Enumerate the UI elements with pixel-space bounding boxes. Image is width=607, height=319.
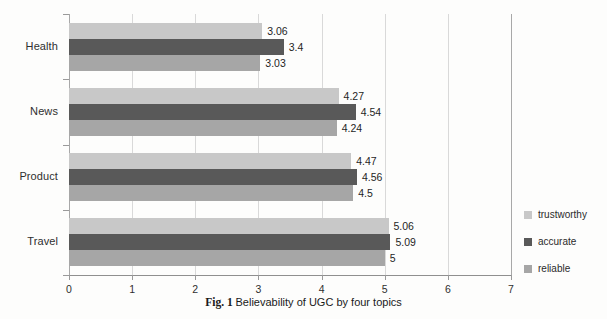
- bar-value-product-trustworthy: 4.47: [356, 153, 376, 169]
- x-axis-line: [69, 275, 512, 276]
- bar-news-reliable: [69, 120, 337, 136]
- grid-line-6: [448, 14, 449, 275]
- y-axis-tick-0: [63, 14, 69, 15]
- bar-product-reliable: [69, 185, 353, 201]
- x-axis-tick-label-7: 7: [508, 283, 514, 295]
- legend-swatch-trustworthy-icon: [524, 211, 532, 219]
- category-label-travel: Travel: [0, 235, 58, 247]
- category-label-product: Product: [0, 170, 58, 182]
- x-axis-tick-label-4: 4: [319, 283, 325, 295]
- bar-value-travel-accurate: 5.09: [395, 234, 415, 250]
- x-axis-tick-label-0: 0: [66, 283, 72, 295]
- y-axis-tick-1: [63, 79, 69, 80]
- figure-container: 3.063.43.034.274.544.244.474.564.55.065.…: [0, 0, 607, 319]
- bar-travel-reliable: [69, 250, 385, 266]
- bar-travel-accurate: [69, 234, 390, 250]
- legend-label-reliable: reliable: [538, 263, 570, 274]
- bar-product-accurate: [69, 169, 357, 185]
- legend-label-accurate: accurate: [538, 236, 576, 247]
- bar-value-news-reliable: 4.24: [342, 120, 362, 136]
- bar-value-travel-trustworthy: 5.06: [394, 218, 414, 234]
- figure-caption: Fig. 1 Believability of UGC by four topi…: [0, 296, 607, 308]
- y-axis-tick-3: [63, 210, 69, 211]
- x-axis-tick-label-3: 3: [256, 283, 262, 295]
- legend-item-trustworthy[interactable]: trustworthy: [524, 201, 604, 228]
- bar-product-trustworthy: [69, 153, 351, 169]
- figure-number: Fig. 1: [205, 296, 232, 308]
- bar-value-travel-reliable: 5: [390, 250, 396, 266]
- legend-item-accurate[interactable]: accurate: [524, 228, 604, 255]
- legend-swatch-reliable-icon: [524, 265, 532, 273]
- bar-value-health-accurate: 3.4: [289, 39, 304, 55]
- bar-value-health-reliable: 3.03: [265, 55, 285, 71]
- bar-value-product-reliable: 4.5: [358, 185, 373, 201]
- bar-health-reliable: [69, 55, 260, 71]
- x-axis-tick-mark-0: [69, 275, 70, 280]
- x-axis-tick-mark-1: [132, 275, 133, 280]
- legend-item-reliable[interactable]: reliable: [524, 255, 604, 282]
- x-axis-tick-mark-6: [448, 275, 449, 280]
- x-axis-tick-mark-5: [385, 275, 386, 280]
- figure-caption-text: Believability of UGC by four topics: [236, 296, 402, 308]
- x-axis-tick-mark-2: [195, 275, 196, 280]
- x-axis-tick-mark-4: [322, 275, 323, 280]
- category-label-health: Health: [0, 40, 58, 52]
- bar-health-trustworthy: [69, 23, 262, 39]
- bar-health-accurate: [69, 39, 284, 55]
- bar-news-accurate: [69, 104, 356, 120]
- legend-label-trustworthy: trustworthy: [538, 209, 587, 220]
- bar-value-news-accurate: 4.54: [361, 104, 381, 120]
- bar-news-trustworthy: [69, 88, 339, 104]
- bar-value-health-trustworthy: 3.06: [267, 23, 287, 39]
- x-axis-tick-label-1: 1: [129, 283, 135, 295]
- x-axis-tick-mark-7: [511, 275, 512, 280]
- x-axis-tick-mark-3: [258, 275, 259, 280]
- bar-value-product-accurate: 4.56: [362, 169, 382, 185]
- legend-swatch-accurate-icon: [524, 238, 532, 246]
- bar-travel-trustworthy: [69, 218, 389, 234]
- bar-value-news-trustworthy: 4.27: [344, 88, 364, 104]
- y-axis-tick-2: [63, 145, 69, 146]
- x-axis-tick-label-6: 6: [445, 283, 451, 295]
- category-label-news: News: [0, 105, 58, 117]
- grid-line-7: [511, 14, 512, 275]
- x-axis-tick-label-5: 5: [382, 283, 388, 295]
- chart-legend: trustworthyaccuratereliable: [524, 201, 604, 282]
- x-axis-tick-label-2: 2: [192, 283, 198, 295]
